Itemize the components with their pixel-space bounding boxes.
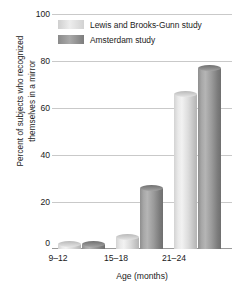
y-tick-80: 80 (24, 56, 50, 66)
bar-cap (58, 241, 81, 247)
bar-cap (174, 91, 197, 97)
bar-amsterdam-21-24 (198, 68, 221, 249)
y-axis-tick-labels: 100 80 60 40 20 0 (22, 0, 50, 288)
bar-cap (198, 65, 221, 71)
y-tick-100: 100 (24, 9, 50, 19)
bar-chart: Percent of subjects who recognized thems… (0, 0, 235, 288)
y-tick-20: 20 (24, 197, 50, 207)
legend-label-lewis: Lewis and Brooks-Gunn study (90, 20, 202, 30)
x-axis-label: Age (months) (52, 271, 232, 281)
bar-lewis-15-18 (116, 237, 139, 249)
x-tick-21-24: 21–24 (144, 253, 204, 263)
y-tick-60: 60 (24, 103, 50, 113)
bar-group-9-12 (58, 14, 108, 249)
x-tick-15-18: 15–18 (86, 253, 146, 263)
bar-lewis-9-12 (58, 244, 81, 249)
bar-cap (116, 234, 139, 240)
y-tick-40: 40 (24, 150, 50, 160)
bar-group-21-24 (174, 14, 224, 249)
bar-group-15-18 (116, 14, 166, 249)
legend-label-amsterdam: Amsterdam study (90, 35, 155, 45)
bar-amsterdam-15-18 (140, 188, 163, 249)
bar-cap (140, 185, 163, 191)
bar-lewis-21-24 (174, 94, 197, 249)
legend-swatch-amsterdam (58, 35, 84, 44)
legend: Lewis and Brooks-Gunn study Amsterdam st… (58, 18, 202, 48)
bar-cap (82, 241, 105, 247)
legend-item-amsterdam: Amsterdam study (58, 33, 202, 46)
plot-area (52, 14, 232, 249)
legend-swatch-lewis (58, 20, 84, 29)
bar-amsterdam-9-12 (82, 244, 105, 249)
x-tick-9-12: 9–12 (28, 253, 88, 263)
legend-item-lewis: Lewis and Brooks-Gunn study (58, 18, 202, 31)
y-tick-0: 0 (24, 238, 50, 248)
